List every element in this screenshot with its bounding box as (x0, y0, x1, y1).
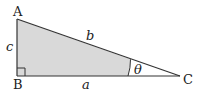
vertex-label-b: B (13, 77, 23, 92)
shaded-region (17, 19, 131, 76)
side-label-a: a (82, 77, 90, 92)
side-label-b: b (86, 28, 94, 43)
right-triangle-diagram: A B C c b a θ (0, 0, 198, 92)
side-label-c: c (6, 39, 14, 54)
vertex-label-a: A (12, 4, 23, 19)
angle-label-theta: θ (134, 62, 142, 77)
vertex-label-c: C (183, 72, 193, 87)
